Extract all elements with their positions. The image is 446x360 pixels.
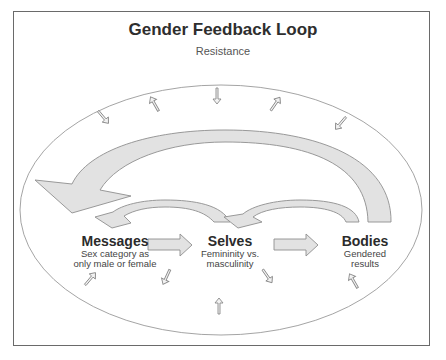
resistance-arrow-icon xyxy=(332,115,348,132)
resistance-arrow-icon xyxy=(95,109,111,126)
node-bodies: Bodies Gendered results xyxy=(325,234,405,268)
small-feedback-arrow-bodies-to-selves xyxy=(224,200,359,228)
node-label: Selves xyxy=(190,234,270,249)
resistance-arrow-icon xyxy=(213,88,221,104)
small-feedback-arrow-selves-to-messages xyxy=(95,200,230,228)
node-messages: Messages Sex category as only male or fe… xyxy=(55,234,175,268)
node-label: Messages xyxy=(55,234,175,249)
node-selves: Selves Femininity vs. masculinity xyxy=(190,234,270,268)
node-description: masculinity xyxy=(190,259,270,269)
resistance-arrow-icon xyxy=(260,267,276,285)
node-description: results xyxy=(325,259,405,269)
resistance-arrow-icon xyxy=(268,95,284,113)
resistance-arrow-icon xyxy=(82,270,98,287)
feedback-loop-graphic xyxy=(0,0,446,360)
resistance-arrow-icon xyxy=(159,268,173,286)
resistance-arrow-icon xyxy=(346,272,361,290)
block-arrow-selves-to-bodies xyxy=(274,234,318,256)
node-label: Bodies xyxy=(325,234,405,249)
node-description: only male or female xyxy=(55,259,175,269)
resistance-arrow-icon xyxy=(215,298,223,314)
resistance-arrow-icon xyxy=(147,95,162,113)
